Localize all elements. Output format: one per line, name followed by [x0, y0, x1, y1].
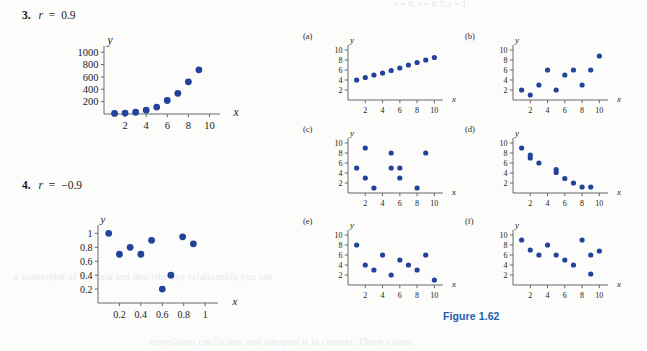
data-point [371, 267, 376, 272]
data-point [554, 170, 559, 175]
panel-label-f: (f) [465, 216, 474, 226]
x-axis-label: x [616, 187, 621, 197]
x-tick-label: 8 [580, 106, 584, 115]
x-tick-label: 4 [144, 120, 150, 131]
y-tick-label: 8 [504, 241, 508, 250]
x-tick-label: 6 [398, 291, 402, 300]
data-point [562, 257, 567, 262]
x-tick-label: 10 [595, 106, 603, 115]
chart-panel-a-svg: 246810246810yx [320, 32, 465, 120]
panel-label-d: (d) [465, 124, 475, 134]
data-point [519, 87, 524, 92]
problem-3-r-symbol: r [39, 9, 43, 21]
y-tick-label: 0.4 [80, 270, 93, 281]
data-point [116, 251, 123, 258]
data-point [190, 240, 197, 247]
data-point [132, 109, 139, 116]
data-point [597, 53, 602, 58]
y-tick-label: 8 [504, 56, 508, 65]
data-point [167, 272, 174, 279]
x-tick-label: 6 [398, 106, 402, 115]
x-tick-label: 8 [186, 120, 191, 131]
x-axis-label: x [232, 295, 238, 307]
y-tick-label: 2 [339, 271, 343, 280]
x-tick-label: 0.4 [135, 309, 148, 320]
showthrough-bottom-text: correlation coefficient and interpret it… [150, 337, 647, 347]
problem-3-equals: = [49, 9, 56, 21]
x-tick-label: 2 [528, 291, 532, 300]
y-tick-label: 10 [500, 231, 508, 240]
data-point [536, 82, 541, 87]
y-tick-label: 6 [504, 251, 508, 260]
y-tick-label: 2 [504, 271, 508, 280]
x-tick-label: 0.6 [156, 309, 169, 320]
data-point [414, 185, 419, 190]
x-tick-label: 10 [595, 199, 603, 208]
problem-4-number: 4. [22, 179, 31, 191]
data-point [159, 286, 166, 293]
data-point [164, 97, 171, 104]
panel-label-c: (c) [303, 124, 312, 134]
x-tick-label: 0.8 [177, 309, 190, 320]
data-point [137, 251, 144, 258]
showthrough-top-text: r = 0, r = 0.7, r = 1. [395, 0, 647, 9]
data-point [363, 145, 368, 150]
chart-panel-b: 246810246810yx [485, 32, 630, 120]
data-point [111, 110, 118, 117]
y-axis-label: y [349, 220, 354, 230]
y-tick-label: 6 [504, 159, 508, 168]
data-point [588, 67, 593, 72]
data-point [579, 184, 584, 189]
data-point [545, 242, 550, 247]
y-tick-label: 8 [504, 149, 508, 158]
data-point [363, 262, 368, 267]
data-point [414, 267, 419, 272]
x-tick-label: 4 [381, 199, 385, 208]
y-tick-label: 4 [339, 76, 343, 85]
y-tick-label: 2 [504, 86, 508, 95]
data-point [105, 230, 112, 237]
x-tick-label: 4 [381, 291, 385, 300]
data-point [519, 237, 524, 242]
x-tick-label: 4 [546, 199, 550, 208]
x-axis-label: x [451, 279, 456, 289]
x-tick-label: 8 [580, 291, 584, 300]
data-point [423, 57, 428, 62]
y-tick-label: 4 [504, 261, 508, 270]
x-tick-label: 2 [363, 106, 367, 115]
data-point [354, 165, 359, 170]
data-point [397, 65, 402, 70]
x-tick-label: 6 [563, 106, 567, 115]
data-point [196, 66, 203, 73]
y-tick-label: 2 [339, 86, 343, 95]
data-point [554, 252, 559, 257]
data-point [389, 165, 394, 170]
data-point [185, 78, 192, 85]
data-point [127, 244, 134, 251]
data-point [571, 262, 576, 267]
y-tick-label: 600 [83, 72, 99, 83]
data-point [536, 252, 541, 257]
y-tick-label: 10 [335, 139, 343, 148]
chart-panel-b-svg: 246810246810yx [485, 32, 630, 120]
y-tick-label: 6 [339, 66, 343, 75]
y-tick-label: 200 [83, 96, 99, 107]
x-tick-label: 2 [363, 199, 367, 208]
data-point [432, 55, 437, 60]
x-axis-label: x [451, 187, 456, 197]
data-point [143, 107, 150, 114]
y-tick-label: 4 [339, 169, 343, 178]
y-tick-label: 10 [500, 46, 508, 55]
data-point [174, 90, 181, 97]
data-point [579, 237, 584, 242]
data-point [397, 175, 402, 180]
x-tick-label: 10 [595, 291, 603, 300]
y-tick-label: 8 [339, 149, 343, 158]
data-point [571, 67, 576, 72]
x-axis-label: x [232, 106, 239, 118]
y-tick-label: 4 [504, 76, 508, 85]
y-tick-label: 10 [500, 139, 508, 148]
x-tick-label: 6 [563, 199, 567, 208]
y-tick-label: 10 [335, 231, 343, 240]
chart-panel-d: 246810246810yx [485, 125, 630, 213]
